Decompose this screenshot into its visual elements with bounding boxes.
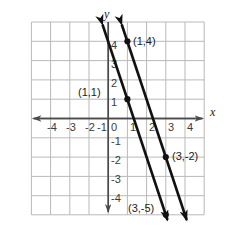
point-marker-1-1 (124, 96, 130, 102)
x-tick-label-neg1: -1 (97, 121, 107, 133)
y-tick-label-neg1: -1 (111, 135, 121, 147)
point-label-1-4: (1,4) (133, 35, 156, 47)
point-label-1-1: (1,1) (78, 86, 101, 98)
y-tick-label-neg2: -2 (111, 154, 121, 166)
x-axis-label: x (209, 105, 216, 119)
x-tick-label-3: 3 (168, 121, 174, 133)
x-tick-label-0: 0 (111, 121, 117, 133)
graph-canvas: x y -4 -3 -2 -1 0 1 2 3 4 4 3 2 1 -1 -2 … (0, 0, 228, 238)
x-tick-label-4: 4 (187, 121, 193, 133)
point-marker-3-neg5 (163, 212, 169, 218)
point-marker-1-4 (124, 38, 130, 44)
y-tick-label-2: 2 (111, 77, 117, 89)
x-tick-label-neg2: -2 (85, 121, 95, 133)
point-marker-3-neg2 (163, 154, 169, 160)
x-tick-label-neg4: -4 (47, 121, 57, 133)
y-axis-label: y (103, 7, 110, 21)
coordinate-plane-figure: x y -4 -3 -2 -1 0 1 2 3 4 4 3 2 1 -1 -2 … (0, 0, 228, 238)
y-tick-label-neg4: -4 (111, 192, 121, 204)
x-tick-label-neg3: -3 (66, 121, 76, 133)
y-tick-label-1: 1 (111, 96, 117, 108)
y-tick-label-neg3: -3 (111, 173, 121, 185)
point-label-3-neg2: (3,-2) (172, 150, 198, 162)
point-label-3-neg5: (3,-5) (128, 202, 154, 214)
